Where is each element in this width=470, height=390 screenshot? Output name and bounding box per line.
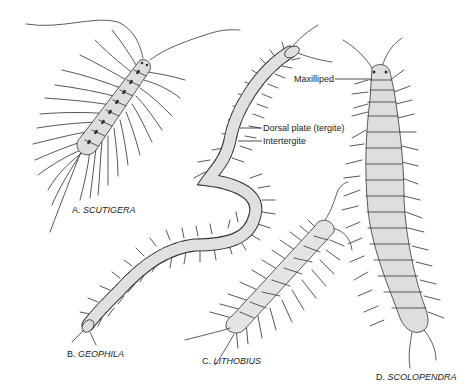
geophila-drawing — [72, 25, 332, 345]
label-scolopendra: D. SCOLOPENDRA — [376, 372, 457, 382]
label-lithobius: C. LITHOBIUS — [202, 356, 261, 366]
callout-dorsal-plate: Dorsal plate (tergite) — [263, 123, 345, 133]
label-scutigera: A. SCUTIGERA — [72, 205, 136, 215]
label-geophila: B. GEOPHILA — [67, 349, 124, 359]
callout-maxilliped: Maxilliped — [294, 74, 334, 84]
callout-intertergite: Intertergite — [263, 136, 306, 146]
scolopendra-drawing — [342, 38, 444, 368]
centipede-diagram: .ln { stroke:#333; fill:none; stroke-wid… — [0, 0, 470, 390]
lithobius-drawing — [185, 182, 352, 365]
scutigera-drawing — [26, 20, 240, 232]
centipede-illustrations: .ln { stroke:#333; fill:none; stroke-wid… — [0, 0, 470, 390]
